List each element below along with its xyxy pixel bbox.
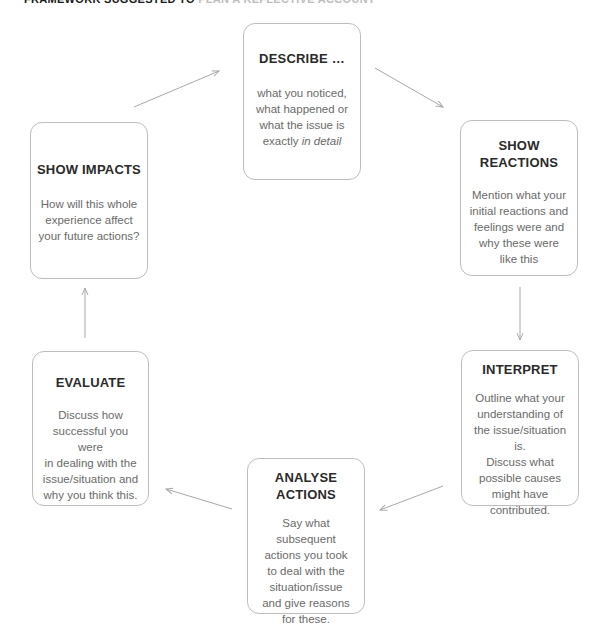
step-show-impacts: SHOW IMPACTS How will this whole experie… [30, 122, 148, 279]
arrow-interpret-to-analyse [380, 486, 443, 510]
step-description: Discuss how successful you were in deali… [39, 407, 142, 503]
step-interpret: INTERPRET Outline what your understandin… [461, 350, 579, 506]
step-analyse-actions: ANALYSE ACTIONS Say what subsequent acti… [247, 458, 365, 614]
step-description: Outline what your understanding of the i… [468, 390, 572, 518]
step-title: SHOW IMPACTS [37, 161, 141, 178]
arrow-impacts-to-describe [134, 71, 219, 107]
step-description: what you noticed, what happened or what … [250, 85, 354, 149]
step-description: Mention what your initial reactions and … [467, 187, 571, 267]
step-title: SHOW REACTIONS [467, 137, 571, 171]
step-title: ANALYSE ACTIONS [254, 469, 358, 503]
step-describe: DESCRIBE … what you noticed, what happen… [243, 23, 361, 180]
step-evaluate: EVALUATE Discuss how successful you were… [32, 351, 149, 506]
step-description: How will this whole experience affect yo… [37, 196, 141, 244]
step-title: EVALUATE [39, 374, 142, 391]
step-title: INTERPRET [468, 361, 572, 378]
arrow-describe-to-reactions [375, 68, 443, 107]
arrow-analyse-to-evaluate [166, 489, 232, 509]
step-show-reactions: SHOW REACTIONS Mention what your initial… [460, 120, 578, 276]
step-title: DESCRIBE … [250, 50, 354, 67]
step-description: Say what subsequent actions you took to … [254, 515, 358, 627]
